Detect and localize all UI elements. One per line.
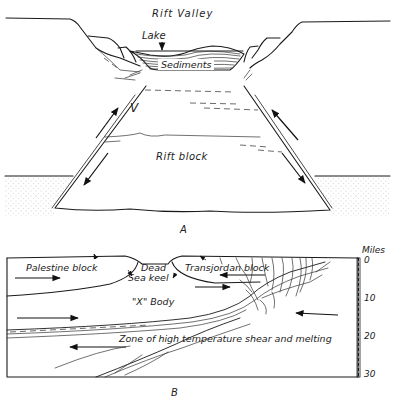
- left-boundary-fault: [52, 95, 135, 208]
- east-motion-arrow: [296, 313, 338, 315]
- scale-tick-0: 0: [364, 255, 370, 265]
- left-fault-dash: [104, 58, 120, 70]
- right-fault-fractures: [244, 70, 252, 80]
- right-boundary-fault: [255, 95, 332, 208]
- rift-valley-diagram: V Rift Valley Lake Sediments Rift block …: [0, 0, 395, 402]
- palestine-block-label: Palestine block: [26, 262, 98, 273]
- right-step-fault-2: [244, 46, 258, 62]
- left-fault-fractures: [115, 70, 142, 80]
- left-escarpment: [6, 18, 140, 66]
- figure-b-caption: B: [171, 387, 178, 398]
- transjordan-block-label: Transjordan block: [185, 262, 270, 273]
- dead-sea-keel-label-2: Sea keel: [128, 272, 169, 283]
- right-step-fault-1: [252, 38, 280, 58]
- right-escarpment: [250, 21, 390, 68]
- scale-tick-20: 20: [364, 331, 376, 341]
- figure-b: Miles 0 10 20 30 Palestine block Dead Se…: [7, 245, 385, 398]
- left-step-fault-1: [88, 36, 124, 58]
- rift-block-outline: [55, 86, 330, 212]
- figure-a: V Rift Valley Lake Sediments Rift block …: [5, 8, 390, 235]
- sediments-label: Sediments: [161, 59, 211, 70]
- left-down-arrow: [84, 153, 108, 185]
- scale-tick-10: 10: [364, 293, 376, 303]
- v-mark: V: [130, 101, 139, 115]
- scale-unit-label: Miles: [362, 245, 385, 255]
- rift-valley-title: Rift Valley: [152, 8, 213, 19]
- scale-tick-30: 30: [364, 369, 376, 379]
- stippled-ground-left: [5, 176, 73, 216]
- keel-right-pointer: [173, 273, 176, 278]
- rift-block-label: Rift block: [156, 151, 209, 162]
- figure-a-caption: A: [179, 224, 187, 235]
- lake-label: Lake: [142, 30, 166, 41]
- shear-zone-label: Zone of high temperature shear and melti…: [118, 333, 332, 344]
- x-body-label: "X" Body: [132, 296, 175, 307]
